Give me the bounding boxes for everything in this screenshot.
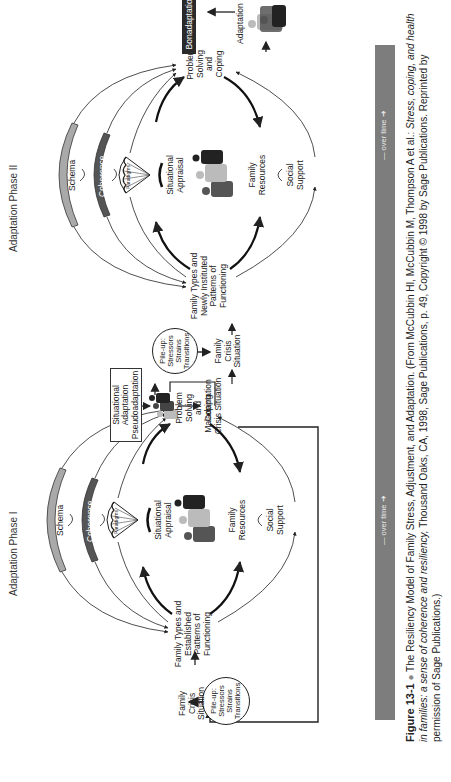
figure-number: Figure 13-1 [404,683,416,742]
crisis-line: Situation [197,687,207,720]
family-types-line: Functioning [203,598,213,670]
situational-adaptation-box: Situational Adaptation Pseudoadaptation [110,368,142,442]
family-types-line: Functioning [219,248,229,324]
support-line: Support [296,157,306,193]
figure-stage: Adaptation Phase I Adaptation Phase II P… [0,0,451,782]
phase2-appraisal-label: Situational Appraisal [166,153,185,197]
time-text: over time [379,505,388,536]
resources-line: Resources [258,153,268,197]
phase1-crisis-label: Family Crisis Situation [178,687,207,720]
bonadaptation-box: Bonadaptation [182,0,196,54]
pileup-line: Transitions [183,333,191,369]
time-label-1: — over time ➜ [379,495,388,545]
phase1-coherence-label: Coherence [86,500,96,542]
time-text: over time [379,120,388,151]
support-line: Support [276,502,286,538]
phase1-resources-label: Family Resources [228,498,247,542]
adaptation-figures-icon [248,5,286,32]
pileup-line: Transitions [234,683,242,719]
family-figures-icon-2 [193,150,234,197]
figure-title: The Resiliency Model of Family Stress, A… [405,372,416,672]
phase1-support-label: Social Support [266,502,285,538]
middle-pileup-circle: Pile-up: Stressors Strains Transitions [152,328,198,374]
phase1-family-types-label: Family Types and Established Patterns of… [174,598,212,670]
phase1-label: Adaptation Phase I [8,511,19,596]
phase2-paradigms-label: Paradigms [124,165,134,189]
phase2-support-label: Social Support [286,157,305,193]
box-line: Pseudoadaptation [131,371,141,440]
maladaptation-label: Maladaptation Crisis Situation [204,370,223,442]
resources-line: Resources [238,498,248,542]
crisis-line: Situation [233,334,243,368]
phase2-schema-label: Schema [68,160,78,191]
citation-prefix: (From McCubbin HI, McCubbin M, Thompson … [405,129,416,369]
bullet-icon: ● [405,674,416,680]
phase2-family-types-label: Family Types and Newly Instituted Patter… [190,248,228,324]
phase2-label: Adaptation Phase II [8,165,19,252]
adaptation-label-text: Adaptation [236,3,246,44]
family-figures-icon-1 [175,495,216,542]
time-bar: — over time ➜ — over time ➜ [375,45,395,720]
middle-crisis-label: Family Crisis Situation [214,334,243,368]
phase2-resources-label: Family Resources [248,153,267,197]
phase1-schema-label: Schema [56,505,66,536]
phase1-pileup-circle: Pile-up: Stressors Strains Transitions [202,677,250,725]
maladaptation-line: Crisis Situation [214,370,224,442]
problem-line: Coping [215,46,225,82]
time-label-2: — over time ➜ [379,110,388,160]
phase2-coherence-label: Coherence [98,155,108,197]
phase1-paradigms-label: Paradigms [112,510,122,534]
figure-caption: Figure 13-1 ● The Resiliency Model of Fa… [404,7,443,742]
appraisal-line: Appraisal [164,498,174,542]
appraisal-line: Appraisal [176,153,186,197]
phase1-appraisal-label: Situational Appraisal [154,498,173,542]
